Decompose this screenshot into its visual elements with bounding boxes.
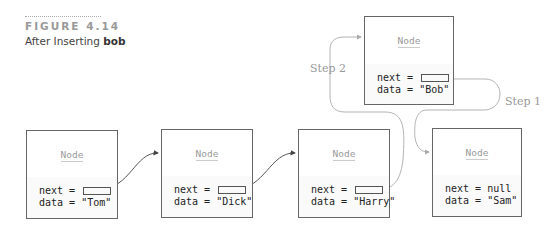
pointer-box	[218, 186, 246, 194]
next-field: next =	[174, 184, 252, 196]
next-field: next =	[39, 185, 117, 197]
next-field: next =	[311, 184, 389, 196]
node-dick: Node next = data = "Dick"	[161, 129, 253, 218]
node-title: Node	[61, 149, 84, 162]
data-field: data = "Sam"	[445, 195, 521, 207]
node-harry: Node next = data = "Harry"	[298, 129, 390, 218]
node-sam: Node next = null data = "Sam"	[432, 128, 522, 217]
next-field: next =	[377, 72, 453, 84]
node-title: Node	[398, 35, 421, 48]
data-field: data = "Harry"	[311, 196, 389, 208]
node-title: Node	[466, 147, 489, 160]
data-field: data = "Dick"	[174, 196, 252, 208]
node-bob: Node next = data = "Bob"	[364, 16, 454, 105]
node-tom: Node next = data = "Tom"	[26, 130, 118, 219]
pointer-box	[355, 186, 383, 194]
node-title: Node	[196, 148, 219, 161]
node-title: Node	[333, 148, 356, 161]
step-1-label: Step 1	[505, 95, 541, 108]
next-field: next = null	[445, 183, 521, 195]
pointer-box	[83, 187, 111, 195]
data-field: data = "Bob"	[377, 84, 453, 96]
data-field: data = "Tom"	[39, 197, 117, 209]
step-2-label: Step 2	[310, 62, 346, 75]
pointer-box	[421, 74, 449, 82]
